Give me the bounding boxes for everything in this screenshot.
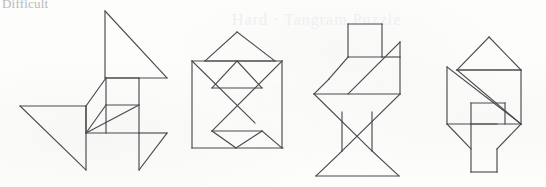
tangram-figure-2-edge-15 bbox=[236, 131, 262, 148]
tangram-figure-4-edge-7 bbox=[447, 67, 521, 124]
tangram-figure-4-edge-0 bbox=[457, 37, 489, 70]
tangram-figure-2-edge-1 bbox=[237, 32, 275, 61]
tangram-figure-2-edge-0 bbox=[205, 32, 237, 61]
tangram-figure-3-edge-15 bbox=[372, 151, 399, 176]
tangram-figure-2[interactable] bbox=[192, 32, 283, 148]
tangram-figure-3-edge-11 bbox=[342, 94, 400, 151]
tangram-figure-3[interactable] bbox=[314, 24, 400, 176]
tangram-figure-3-edge-5 bbox=[314, 79, 329, 94]
tangram-figure-3-edge-8 bbox=[348, 42, 400, 94]
tangram-worksheet-page: Difficult Hard · Tangram Puzzle bbox=[0, 0, 546, 187]
tangram-figure-1-edge-10 bbox=[86, 78, 106, 106]
tangram-figure-2-edge-14 bbox=[262, 131, 282, 148]
tangram-figure-1-edge-16 bbox=[86, 105, 106, 133]
tangram-figure-4-edge-12 bbox=[447, 124, 471, 149]
tangram-figure-3-edge-10 bbox=[314, 94, 372, 151]
tangram-figures-canvas bbox=[0, 0, 546, 187]
tangram-figure-1-edge-12 bbox=[86, 105, 139, 133]
tangram-figure-1-edge-14 bbox=[139, 133, 167, 170]
tangram-figure-4[interactable] bbox=[447, 37, 521, 172]
tangram-figure-3-edge-4 bbox=[329, 57, 348, 79]
tangram-figure-4-edge-1 bbox=[489, 37, 521, 70]
tangram-figure-3-edge-14 bbox=[316, 151, 342, 176]
tangram-figure-2-edge-13 bbox=[212, 131, 236, 148]
tangram-figure-1-edge-4 bbox=[20, 106, 86, 170]
tangram-figure-1-edge-1 bbox=[105, 11, 167, 78]
tangram-figure-2-edge-10 bbox=[237, 61, 262, 88]
tangram-figure-1[interactable] bbox=[20, 11, 167, 170]
tangram-figure-4-edge-14 bbox=[497, 124, 521, 149]
tangram-figure-2-edge-9 bbox=[212, 61, 237, 88]
